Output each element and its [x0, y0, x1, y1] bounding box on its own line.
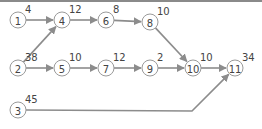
diagram-frame: 14238345412510687128109210101134 [0, 0, 262, 129]
node-label: 7 [103, 64, 109, 75]
node-label: 1 [15, 16, 21, 27]
node-weight: 8 [113, 4, 119, 15]
node-label: 2 [15, 64, 21, 75]
node-label: 4 [59, 16, 65, 27]
node-4: 412 [54, 4, 82, 28]
node-3: 345 [10, 94, 38, 118]
node-1: 14 [10, 4, 31, 28]
node-label: 5 [59, 64, 65, 75]
node-weight: 10 [69, 52, 82, 63]
edge-3-to-11 [26, 74, 229, 111]
node-label: 8 [147, 18, 153, 29]
node-weight: 2 [157, 52, 163, 63]
node-7: 712 [98, 52, 126, 76]
node-weight: 38 [25, 52, 38, 63]
node-6: 68 [98, 4, 119, 28]
node-weight: 45 [25, 94, 38, 105]
node-2: 238 [10, 52, 38, 76]
node-label: 9 [147, 64, 153, 75]
edge-6-to-8 [114, 20, 141, 21]
node-weight: 4 [25, 4, 31, 15]
network-diagram: 14238345412510687128109210101134 [0, 0, 262, 129]
node-weight: 10 [200, 52, 213, 63]
node-11: 1134 [227, 52, 255, 76]
node-8: 810 [142, 6, 170, 30]
node-label: 10 [187, 64, 200, 75]
node-5: 510 [54, 52, 82, 76]
node-10: 1010 [185, 52, 213, 76]
node-9: 92 [142, 52, 163, 76]
node-label: 11 [229, 64, 242, 75]
node-label: 6 [103, 16, 109, 27]
node-weight: 34 [242, 52, 255, 63]
node-weight: 10 [157, 6, 170, 17]
node-weight: 12 [113, 52, 126, 63]
node-weight: 12 [69, 4, 82, 15]
node-label: 3 [15, 106, 21, 117]
